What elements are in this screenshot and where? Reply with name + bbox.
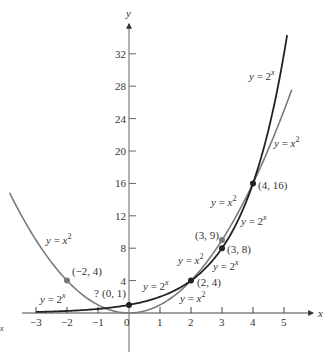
label-point-0-1: (0, 1) bbox=[102, 287, 126, 300]
label-point-m2-4: (−2, 4) bbox=[72, 265, 102, 278]
x-axis-label: x bbox=[317, 307, 323, 319]
eq-2x-top: y = 2x bbox=[248, 68, 275, 82]
y-tick-label: 4 bbox=[121, 275, 127, 287]
y-axis-label: y bbox=[125, 7, 131, 19]
x-tick-label: 0 bbox=[124, 316, 130, 328]
data-point bbox=[188, 278, 194, 284]
y-tick-label: 16 bbox=[115, 177, 127, 189]
y-tick-label: 24 bbox=[115, 113, 127, 125]
x-tick-label: 3 bbox=[219, 316, 225, 328]
x-tick-label: −1 bbox=[92, 316, 104, 328]
eq-x2-bottom: y = x2 bbox=[179, 290, 206, 304]
x-tick-label: 5 bbox=[281, 316, 287, 328]
x-tick-label: 1 bbox=[157, 316, 163, 328]
data-point bbox=[219, 245, 225, 251]
data-point bbox=[250, 180, 256, 186]
label-point-4-16: (4, 16) bbox=[258, 179, 288, 192]
data-point bbox=[64, 278, 70, 284]
label-point-2-4: (2, 4) bbox=[197, 276, 221, 289]
y-tick-label: 32 bbox=[115, 48, 126, 60]
eq-x2-right: y = x2 bbox=[273, 135, 300, 149]
x-tick-label: 2 bbox=[188, 316, 194, 328]
y-tick-label: 28 bbox=[115, 80, 127, 92]
y-tick-label: 12 bbox=[115, 210, 126, 222]
y-ticks: 48121620242832 bbox=[115, 48, 136, 287]
y-tick-label: 20 bbox=[115, 145, 127, 157]
data-point bbox=[126, 302, 132, 308]
eq-2x-left: y = 2x bbox=[39, 291, 66, 305]
chart-canvas: x y −3−2−1012345 48121620242832 (−2, 4) … bbox=[0, 0, 335, 352]
eq-2x-lower: y = 2x bbox=[212, 258, 239, 272]
eq-2x-middle: y = 2x bbox=[142, 278, 169, 292]
x-tick-label: 4 bbox=[250, 316, 256, 328]
x-tick-label: −3 bbox=[30, 316, 42, 328]
eq-x2-upper: y = x2 bbox=[210, 194, 237, 208]
x-tick-label: −2 bbox=[61, 316, 73, 328]
data-point bbox=[219, 237, 225, 243]
eq-2x-upper: y = 2x bbox=[240, 213, 267, 227]
label-question-mark: ? bbox=[94, 287, 99, 299]
y-tick-label: 8 bbox=[121, 242, 127, 254]
label-point-3-9: (3, 9) bbox=[195, 229, 219, 242]
eq-x2-middle: y = x2 bbox=[177, 252, 204, 266]
label-point-3-8: (3, 8) bbox=[227, 243, 251, 256]
eq-x2-left: y = x2 bbox=[45, 232, 72, 246]
stray-x-label: x bbox=[0, 324, 4, 333]
